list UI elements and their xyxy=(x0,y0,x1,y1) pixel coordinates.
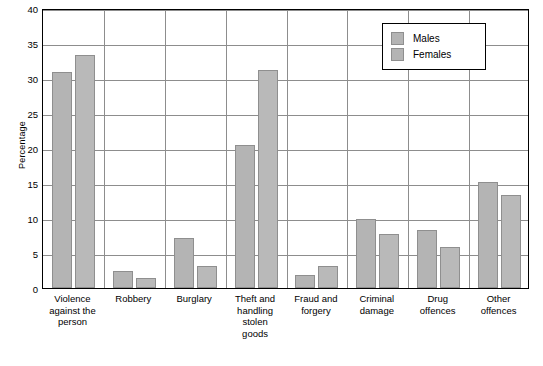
x-tick-label: Criminaldamage xyxy=(346,293,407,316)
gridline xyxy=(43,115,528,116)
bar-males-4 xyxy=(295,275,315,288)
x-tick-label: Violenceagainst theperson xyxy=(42,293,103,328)
category-separator xyxy=(347,10,348,288)
legend-swatch-males xyxy=(391,32,404,45)
y-tick-label: 5 xyxy=(4,249,38,260)
bar-females-5 xyxy=(379,234,399,288)
x-tick-label: Robbery xyxy=(103,293,164,305)
x-tick-label: Drugoffences xyxy=(407,293,468,316)
category-separator xyxy=(104,10,105,288)
bar-females-2 xyxy=(197,266,217,288)
legend-swatch-females xyxy=(391,48,404,61)
bar-females-0 xyxy=(75,55,95,288)
bar-males-0 xyxy=(52,72,72,288)
gridline xyxy=(43,220,528,221)
bar-females-3 xyxy=(258,70,278,288)
legend-label-females: Females xyxy=(413,49,451,60)
gridline xyxy=(43,10,528,11)
bar-males-7 xyxy=(478,182,498,288)
gridline xyxy=(43,80,528,81)
y-tick-label: 15 xyxy=(4,179,38,190)
bar-females-4 xyxy=(318,266,338,288)
y-tick-label: 40 xyxy=(4,4,38,15)
x-tick-label: Burglary xyxy=(164,293,225,305)
bar-females-1 xyxy=(136,278,156,289)
gridline xyxy=(43,150,528,151)
bar-females-7 xyxy=(501,195,521,288)
y-tick-label: 20 xyxy=(4,144,38,155)
category-separator xyxy=(226,10,227,288)
x-tick-label: Theft andhandlingstolengoods xyxy=(225,293,286,339)
bar-males-3 xyxy=(235,145,255,288)
y-tick-label: 30 xyxy=(4,74,38,85)
y-tick-label: 35 xyxy=(4,39,38,50)
legend-item-females: Females xyxy=(391,46,477,62)
y-tick-label: 0 xyxy=(4,284,38,295)
bar-males-6 xyxy=(417,230,437,288)
bar-females-6 xyxy=(440,247,460,288)
y-axis-ticks: 0510152025303540 xyxy=(0,9,38,289)
y-tick-label: 10 xyxy=(4,214,38,225)
legend-label-males: Males xyxy=(413,33,440,44)
category-separator xyxy=(165,10,166,288)
legend-item-males: Males xyxy=(391,30,477,46)
x-tick-label: Otheroffences xyxy=(468,293,529,316)
bar-males-5 xyxy=(356,219,376,288)
bar-chart: Percentage 0510152025303540 Males Female… xyxy=(0,0,543,366)
chart-legend: Males Females xyxy=(382,23,486,70)
bar-males-2 xyxy=(174,238,194,288)
x-tick-label: Fraud andforgery xyxy=(286,293,347,316)
bar-males-1 xyxy=(113,271,133,288)
y-tick-label: 25 xyxy=(4,109,38,120)
gridline xyxy=(43,185,528,186)
category-separator xyxy=(287,10,288,288)
